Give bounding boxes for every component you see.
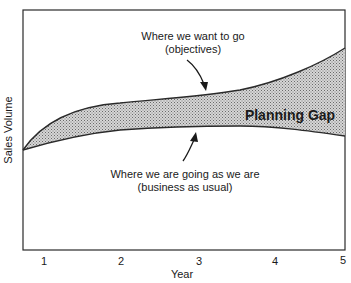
- planning-gap-label: Planning Gap: [245, 107, 335, 123]
- x-tick-5: 5: [340, 254, 346, 266]
- x-tick-4: 4: [272, 255, 278, 267]
- usual-arrow: [183, 140, 194, 161]
- x-tick-3: 3: [196, 255, 202, 267]
- x-axis-label: Year: [171, 268, 194, 280]
- x-tick-1: 1: [41, 255, 47, 267]
- planning-gap-diagram: Where we want to go (objectives) Plannin…: [0, 0, 351, 283]
- planning-gap-area: [23, 48, 345, 150]
- objectives-label-line1: Where we want to go: [141, 30, 244, 42]
- objectives-label-line2: (objectives): [165, 43, 221, 55]
- x-tick-2: 2: [118, 255, 124, 267]
- objectives-arrow: [187, 60, 204, 84]
- usual-arrowhead-icon: [190, 132, 198, 142]
- usual-label-line2: (business as usual): [138, 181, 233, 193]
- usual-label-line1: Where we are going as we are: [110, 168, 259, 180]
- y-axis-label: Sales Volume: [2, 96, 14, 163]
- objectives-arrowhead-icon: [200, 82, 208, 91]
